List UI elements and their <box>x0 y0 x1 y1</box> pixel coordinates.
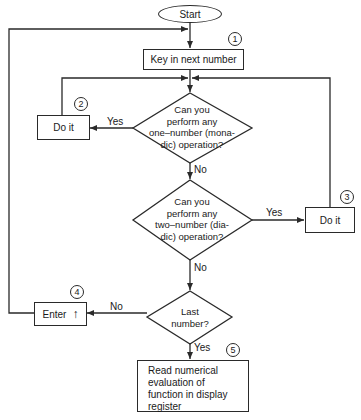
yes-label-dyadic: Yes <box>266 207 282 218</box>
read-result-box: Read numerical evaluation of function in… <box>137 360 249 412</box>
step-2-badge: 2 <box>74 97 88 111</box>
no-label-monadic: No <box>194 164 207 175</box>
key-in-next-number-box: Key in next number <box>143 49 244 70</box>
start-label: Start <box>179 9 200 20</box>
no-label-dyadic: No <box>194 262 207 273</box>
enter-box: Enter ↑ <box>34 302 87 326</box>
step-3-badge: 3 <box>340 190 354 204</box>
step-5-badge: 5 <box>226 343 240 357</box>
do-it-dyadic-box: Do it <box>305 207 355 233</box>
step-1-badge: 1 <box>228 32 242 46</box>
no-label-last: No <box>110 301 123 312</box>
step-4-badge: 4 <box>70 285 84 299</box>
key-in-label: Key in next number <box>150 54 236 65</box>
monadic-decision-text: Can you perform any one–number (mona- di… <box>140 104 244 150</box>
dyadic-decision-text: Can you perform any two–number (dia- dic… <box>140 196 244 242</box>
last-number-decision-text: Last number? <box>160 306 220 329</box>
start-node: Start <box>158 5 222 23</box>
up-arrow-icon: ↑ <box>72 307 78 321</box>
yes-label-monadic: Yes <box>107 116 123 127</box>
yes-label-last: Yes <box>194 342 210 353</box>
do-it-monadic-box: Do it <box>37 115 90 140</box>
